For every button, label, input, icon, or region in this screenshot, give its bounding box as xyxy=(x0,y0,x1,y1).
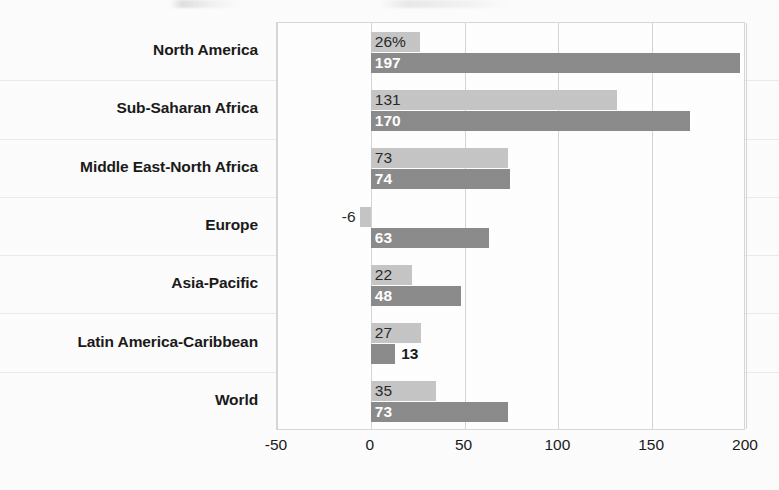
x-axis: -50050100150200 xyxy=(276,430,745,464)
bar-group: 2248 xyxy=(277,265,744,306)
chart-container: North AmericaSub-Saharan AfricaMiddle Ea… xyxy=(0,0,779,490)
category-label: Middle East-North Africa xyxy=(0,158,258,176)
bar-value-label: 27 xyxy=(375,323,392,343)
bar-value-label: 74 xyxy=(375,169,392,189)
category-label: World xyxy=(0,391,258,409)
bar-value-label: 170 xyxy=(375,111,401,131)
x-axis-tick-label: 50 xyxy=(455,436,472,454)
bar-value-label: 35 xyxy=(375,381,392,401)
category-label: North America xyxy=(0,41,258,59)
x-axis-tick-label: 100 xyxy=(544,436,570,454)
bar-value-label: 73 xyxy=(375,148,392,168)
bar-value-label: 131 xyxy=(375,90,401,110)
category-label: Asia-Pacific xyxy=(0,274,258,292)
bar-value-label: -6 xyxy=(330,207,356,227)
category-axis-labels: North AmericaSub-Saharan AfricaMiddle Ea… xyxy=(0,22,268,430)
bar-muslims xyxy=(371,111,690,131)
cropped-title-remnant xyxy=(170,0,530,8)
bar-value-label: 13 xyxy=(401,344,418,364)
bar-value-label: 63 xyxy=(375,228,392,248)
gridline-200 xyxy=(746,23,747,429)
bar-value-label: 48 xyxy=(375,286,392,306)
bar-region xyxy=(371,90,617,110)
bar-region xyxy=(360,207,371,227)
bar-value-label: 197 xyxy=(375,53,401,73)
bar-value-label: 22 xyxy=(375,265,392,285)
category-label: Europe xyxy=(0,216,258,234)
bar-group: 2713 xyxy=(277,323,744,364)
bar-muslims xyxy=(371,344,395,364)
x-axis-tick-label: 0 xyxy=(365,436,374,454)
category-label: Sub-Saharan Africa xyxy=(0,99,258,117)
bar-muslims xyxy=(371,53,741,73)
bar-group: 3573 xyxy=(277,381,744,422)
bar-group: 131170 xyxy=(277,90,744,131)
plot-area: 26%1971311707374-663224827133573 Region … xyxy=(276,22,745,430)
x-axis-tick-label: 200 xyxy=(732,436,758,454)
bar-group: -663 xyxy=(277,207,744,248)
bar-group: 7374 xyxy=(277,148,744,189)
x-axis-tick-label: 150 xyxy=(638,436,664,454)
bar-value-label: 73 xyxy=(375,402,392,422)
category-label: Latin America-Caribbean xyxy=(0,333,258,351)
bar-group: 26%197 xyxy=(277,32,744,73)
bar-value-label: 26% xyxy=(375,32,406,52)
x-axis-tick-label: -50 xyxy=(265,436,287,454)
